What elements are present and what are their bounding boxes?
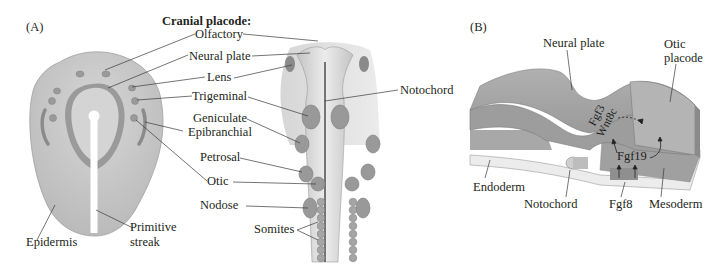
label-trigeminal: Trigeminal <box>192 90 247 103</box>
label-mesoderm: Mesoderm <box>649 198 702 211</box>
label-neural-plate-b: Neural plate <box>543 37 604 50</box>
label-otic-placode-line1: Otic <box>664 38 686 51</box>
label-otic: Otic <box>207 175 229 188</box>
label-petrosal: Petrosal <box>200 151 240 164</box>
head-dorsal-illustration <box>281 42 380 262</box>
diagram-canvas <box>0 0 726 268</box>
label-notochord-b: Notochord <box>524 198 577 211</box>
label-epibranchial: Epibranchial <box>188 126 252 139</box>
label-somites: Somites <box>254 223 294 236</box>
label-lens: Lens <box>207 71 231 84</box>
embryo-flat-illustration <box>30 52 163 236</box>
panel-a-tag: (A) <box>26 20 43 35</box>
label-notochord-a: Notochord <box>400 84 453 97</box>
label-otic-placode-line2: placode <box>664 52 703 65</box>
label-olfactory: Olfactory <box>195 28 243 41</box>
label-fgf8: Fgf8 <box>609 198 633 211</box>
label-endoderm: Endoderm <box>473 181 525 194</box>
label-geniculate: Geniculate <box>193 112 247 125</box>
panel-b-tag: (B) <box>470 20 487 35</box>
label-nodose: Nodose <box>200 199 238 212</box>
label-primitive-streak-line2: streak <box>130 236 160 249</box>
label-epidermis: Epidermis <box>26 236 77 249</box>
label-primitive-streak-line1: Primitive <box>130 221 177 234</box>
label-fgf19: Fgf19 <box>617 150 647 163</box>
otic-induction-block-illustration <box>470 69 700 190</box>
label-neural-plate-a: Neural plate <box>189 50 250 63</box>
